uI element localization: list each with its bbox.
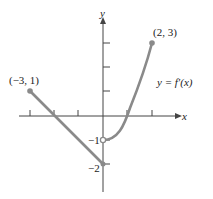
closed-point-left xyxy=(27,88,33,94)
y-axis-label: y xyxy=(99,7,105,19)
chart-canvas: y x (−3, 1) (2, 3) y = f′(x) −1 −2 xyxy=(0,0,213,199)
y-tick-label-neg1: −1 xyxy=(88,134,100,146)
closed-point-bottom xyxy=(101,162,106,167)
x-axis-label: x xyxy=(181,110,187,122)
x-axis-arrow-icon xyxy=(175,113,182,119)
point-label-right: (2, 3) xyxy=(153,26,177,39)
linear-segment xyxy=(30,91,103,164)
open-point xyxy=(100,137,105,142)
y-ticks xyxy=(103,43,110,164)
y-tick-label-neg2: −2 xyxy=(88,162,100,174)
curve-label: y = f′(x) xyxy=(156,76,193,89)
closed-point-right xyxy=(149,40,155,46)
point-label-left: (−3, 1) xyxy=(9,74,39,87)
curve-segment xyxy=(103,43,152,140)
